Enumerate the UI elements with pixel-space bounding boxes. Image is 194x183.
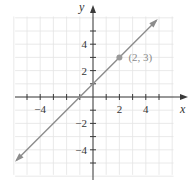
y-axis-label: y [78, 0, 85, 14]
y-axis-arrow-icon [90, 5, 96, 13]
x-axis-arrow-icon [180, 94, 188, 100]
point-label: (2, 3) [128, 51, 152, 64]
point-marker [116, 54, 122, 60]
y-tick-label: 4 [82, 38, 88, 50]
x-tick-label: −4 [34, 103, 46, 115]
y-tick-label: −4 [75, 144, 87, 156]
y-tick-label: −2 [75, 117, 87, 129]
x-axis-label: x [179, 102, 186, 116]
coordinate-plane: −42442−2−4 (2, 3) x y [0, 0, 194, 183]
x-tick-label: 4 [143, 103, 149, 115]
labeled-points: (2, 3) [116, 51, 152, 64]
grid [14, 16, 174, 176]
y-tick-label: 2 [82, 65, 88, 77]
x-tick-label: 2 [117, 103, 123, 115]
